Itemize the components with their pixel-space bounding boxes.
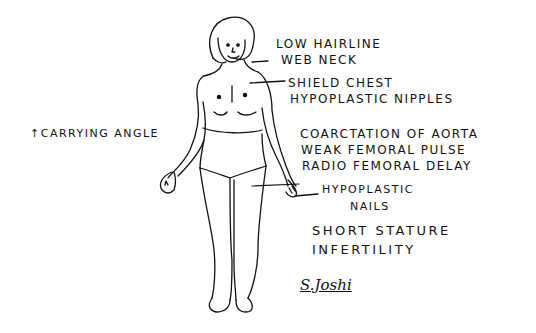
- briefs-right: [262, 134, 266, 166]
- left-shoulder-arm: [168, 76, 204, 178]
- waist-line: [203, 128, 262, 133]
- left-hand: [160, 172, 175, 193]
- label-weak-femoral-pulse: WEAK FEMORAL PULSE: [301, 144, 466, 156]
- leader-web-neck: [252, 61, 268, 62]
- right-inner-arm: [262, 108, 288, 186]
- leader-nails: [295, 194, 318, 196]
- diagram-canvas: LOW HAIRLINE WEB NECK SHIELD CHEST HYPOP…: [0, 0, 536, 333]
- left-foot: [209, 298, 230, 312]
- right-foot: [236, 298, 252, 312]
- label-hypoplastic-nipples: HYPOPLASTIC NIPPLES: [290, 93, 454, 105]
- label-hypoplastic: HYPOPLASTIC: [322, 184, 414, 195]
- author-signature: S.Joshi: [300, 276, 352, 294]
- label-coarctation-of-aorta: COARCTATION OF AORTA: [300, 128, 478, 140]
- label-radio-femoral-delay: RADIO FEMORAL DELAY: [302, 160, 472, 172]
- left-inner-arm: [178, 102, 205, 176]
- label-shield-chest: SHIELD CHEST: [288, 77, 393, 89]
- hair-outline: [210, 17, 255, 59]
- neck-left: [204, 64, 222, 76]
- label-infertility: INFERTILITY: [312, 243, 416, 256]
- left-nipple: [217, 95, 220, 98]
- right-nipple: [243, 93, 246, 96]
- label-web-neck: WEB NECK: [281, 54, 357, 66]
- right-leg-inner: [234, 180, 236, 300]
- leader-shield-chest: [250, 81, 285, 83]
- briefs-bottom: [200, 166, 266, 178]
- label-short-stature: SHORT STATURE: [312, 224, 451, 237]
- left-leg-outer: [200, 168, 215, 298]
- label-low-hairline: LOW HAIRLINE: [276, 38, 381, 50]
- label-nails: NAILS: [350, 201, 390, 212]
- label-carrying-angle: ↑CARRYING ANGLE: [30, 128, 159, 139]
- left-leg-inner: [230, 178, 232, 300]
